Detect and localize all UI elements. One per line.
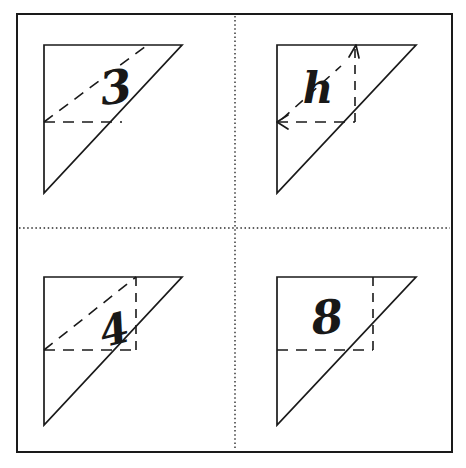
- cell-bottom-left: 4: [44, 277, 182, 425]
- cell-label-top-right: h: [303, 64, 334, 113]
- cell-top-right: h: [277, 45, 416, 193]
- arrow-up-icon: [349, 45, 359, 58]
- cell-label-top-left: 3: [96, 58, 135, 116]
- triangle-outline: [277, 277, 416, 425]
- cell-label-bottom-right: 8: [308, 289, 346, 346]
- cell-bottom-right: 8: [277, 277, 416, 425]
- worksheet-canvas: 3 h 4 8: [0, 0, 466, 468]
- cell-label-bottom-left: 4: [94, 303, 134, 358]
- worksheet-drawing: 3 h 4 8: [0, 0, 466, 468]
- triangle-outline: [277, 45, 416, 193]
- cell-top-left: 3: [44, 43, 182, 193]
